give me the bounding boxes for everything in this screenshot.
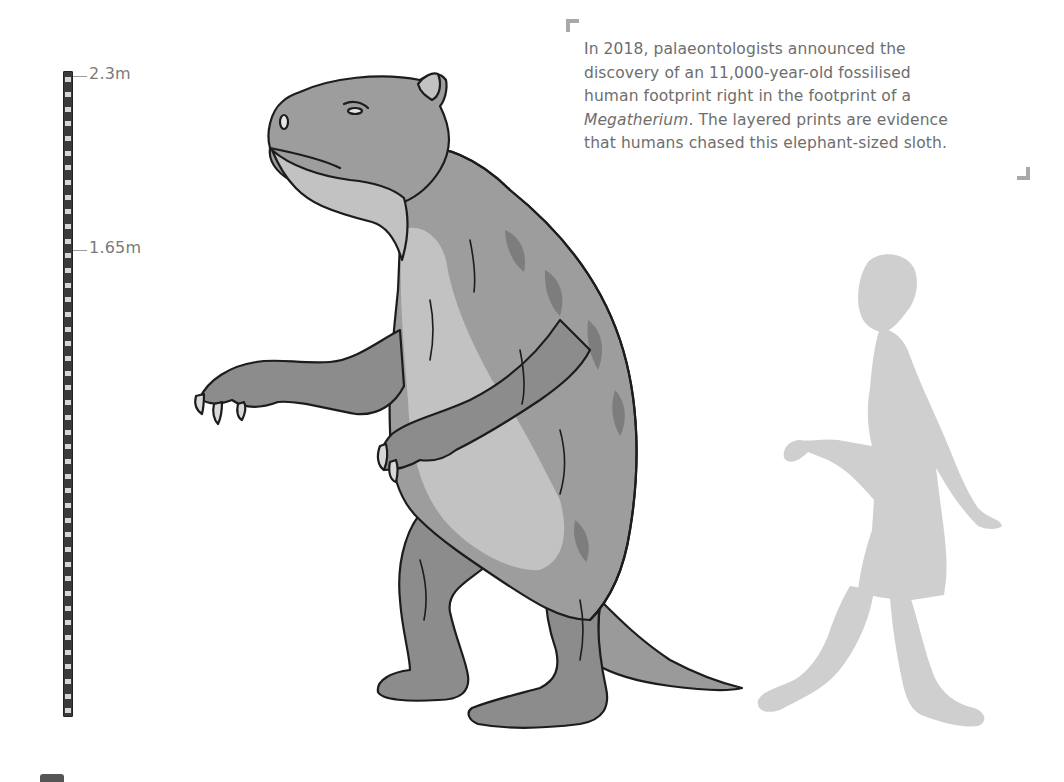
sloth-tail (596, 600, 742, 690)
corner-marker (40, 774, 64, 782)
sloth-eye (348, 108, 362, 114)
megatherium-illustration (195, 73, 742, 727)
sloth-left-arm (200, 330, 404, 414)
sloth-nostril (280, 115, 288, 129)
human-silhouette-icon (758, 254, 1002, 726)
